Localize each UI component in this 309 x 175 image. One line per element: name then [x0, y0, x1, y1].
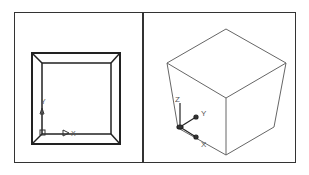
- x-arrow-icon: [63, 130, 69, 136]
- ucs-icon-2d: [40, 108, 69, 136]
- x-arrow-icon: [194, 135, 198, 139]
- isometric-view-drawing: [167, 29, 286, 155]
- y-axis-label: Y: [41, 98, 46, 105]
- y-arrow-icon: [194, 115, 198, 119]
- z-axis-label: Z: [175, 95, 180, 104]
- ucs-origin-icon: [177, 125, 183, 129]
- x-axis-label: X: [71, 130, 76, 137]
- y-axis-label-3d: Y: [201, 109, 207, 118]
- inner-square: [42, 63, 111, 134]
- top-face: [167, 29, 286, 98]
- drawing-canvas: Y X Z Y X: [0, 0, 309, 175]
- x-axis-label-3d: X: [201, 140, 207, 149]
